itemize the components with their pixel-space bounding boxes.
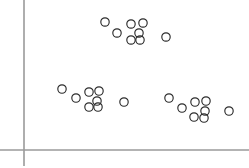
data-point [120,98,128,106]
data-point [113,29,121,37]
data-point [101,18,109,26]
data-point [190,113,198,121]
data-point [127,20,135,28]
data-point [85,88,93,96]
series-cluster-right [165,94,233,122]
data-point [94,103,102,111]
plot-area [0,0,249,168]
series-cluster-top [101,18,170,44]
axes-group [0,0,249,166]
data-point [139,19,147,27]
data-point [127,36,135,44]
scatter-plot-figure [0,0,249,168]
series-cluster-left [58,85,128,111]
data-points-group [58,18,233,122]
data-point [85,103,93,111]
data-point [202,97,210,105]
data-point [225,107,233,115]
data-point [191,98,199,106]
data-point [95,87,103,95]
data-point [165,94,173,102]
data-point [93,97,101,105]
data-point [58,85,66,93]
data-point [162,33,170,41]
data-point [178,104,186,112]
data-point [72,94,80,102]
